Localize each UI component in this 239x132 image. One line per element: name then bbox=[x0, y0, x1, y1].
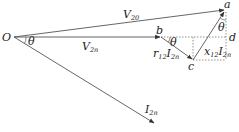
label-V20: V20 bbox=[123, 8, 139, 22]
label-I2n: I2n bbox=[144, 103, 158, 117]
label-V2n: V2n bbox=[82, 40, 98, 54]
label-x12I2n: x12I2n bbox=[204, 45, 231, 59]
theta-b: θ bbox=[170, 36, 177, 49]
label-a: a bbox=[224, 0, 231, 11]
vector-V20 bbox=[14, 10, 224, 37]
label-r12I2n: r12I2n bbox=[153, 47, 179, 61]
label-O: O bbox=[2, 31, 11, 44]
theta-a: θ bbox=[218, 21, 225, 34]
theta-O: θ bbox=[28, 35, 35, 48]
label-c: c bbox=[188, 60, 194, 73]
angle-arc-O bbox=[25, 37, 27, 44]
angle-arc-a bbox=[221, 19, 227, 21]
phasor-diagram: O a b c d θ θ θ V20 V2n r12I2n x12I2n I2… bbox=[0, 0, 239, 132]
label-d: d bbox=[229, 31, 236, 44]
label-b: b bbox=[156, 24, 163, 37]
